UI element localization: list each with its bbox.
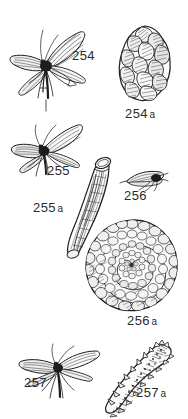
caption-suffix-254a: a [149, 109, 155, 120]
figure-254-adult-caddisfly [4, 22, 96, 112]
figure-caption-256: 256 [124, 189, 147, 202]
figure-caption-255a: 255a [33, 201, 63, 214]
figure-caption-254a: 254a [125, 107, 155, 120]
caption-number-255a: 255 [33, 200, 56, 215]
caption-number-257: 257 [24, 375, 47, 390]
figure-257a-detritus-case [104, 340, 176, 418]
illustration-plate: 254 [0, 0, 188, 419]
figure-254a-pebble-case [115, 24, 177, 106]
caption-number-257a: 257 [136, 385, 159, 400]
figure-256a-spiral-case [82, 218, 182, 314]
caption-suffix-255a: a [57, 203, 63, 214]
caption-number-256a: 256 [127, 313, 150, 328]
caption-suffix-257a: a [160, 388, 166, 399]
caption-number-256: 256 [124, 188, 147, 203]
figure-caption-257a: 257a [136, 386, 166, 399]
caption-number-254: 254 [72, 48, 95, 63]
figure-caption-257: 257 [24, 376, 47, 389]
caption-suffix-256a: a [151, 316, 157, 327]
caption-number-254a: 254 [125, 106, 148, 121]
figure-257-adult-caddisfly [14, 342, 104, 400]
figure-caption-254: 254 [72, 49, 95, 62]
figure-caption-256a: 256a [127, 314, 157, 327]
